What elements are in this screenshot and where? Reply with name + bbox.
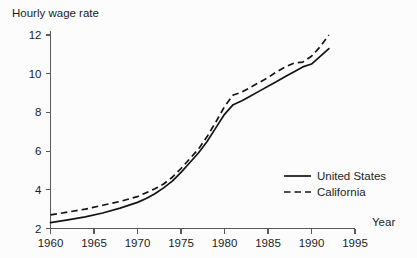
x-tick-label: 1975 (168, 237, 194, 249)
x-tick-label: 1990 (299, 237, 325, 249)
y-tick-label: 4 (35, 184, 42, 196)
y-axis-ticks: 24681012 (29, 29, 51, 235)
series-line-united-states (51, 49, 329, 223)
series-line-california (51, 35, 329, 215)
y-tick-label: 8 (35, 106, 41, 118)
legend-label-united-states: United States (317, 170, 386, 182)
x-axis-title: Year (372, 216, 395, 228)
legend-label-california: California (317, 186, 366, 198)
y-tick-label: 6 (35, 145, 41, 157)
chart-container: Hourly wage rate 24681012 19601965197019… (0, 0, 417, 258)
y-tick-label: 10 (29, 68, 42, 80)
y-tick-label: 12 (29, 29, 42, 41)
y-tick-label: 2 (35, 223, 41, 235)
x-axis-ticks: 19601965197019751980198519901995 (38, 229, 368, 249)
x-tick-label: 1995 (342, 237, 368, 249)
x-tick-label: 1965 (81, 237, 107, 249)
x-tick-label: 1960 (38, 237, 64, 249)
x-tick-label: 1985 (255, 237, 281, 249)
y-axis-title: Hourly wage rate (12, 7, 99, 19)
x-tick-label: 1970 (125, 237, 151, 249)
x-tick-label: 1980 (212, 237, 238, 249)
chart-legend: United States California (284, 170, 386, 198)
line-chart: Hourly wage rate 24681012 19601965197019… (0, 0, 417, 258)
